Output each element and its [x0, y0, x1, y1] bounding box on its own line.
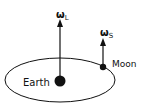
- omega-s-label: ωS: [100, 27, 114, 40]
- omega-l-arrowhead: [57, 19, 63, 27]
- omega-s-arrowhead: [100, 38, 106, 46]
- earth-dot: [55, 76, 66, 87]
- orbit-diagram: ωL Earth ωS Moon: [0, 0, 150, 111]
- earth-label: Earth: [23, 77, 50, 88]
- moon-label: Moon: [112, 59, 136, 69]
- moon-dot: [100, 64, 106, 70]
- omega-l-label: ωL: [56, 9, 69, 22]
